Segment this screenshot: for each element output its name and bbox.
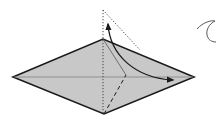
turn-over-icon: [197, 21, 216, 42]
origami-diagram: [0, 0, 224, 131]
paper-diamond: [13, 39, 194, 114]
